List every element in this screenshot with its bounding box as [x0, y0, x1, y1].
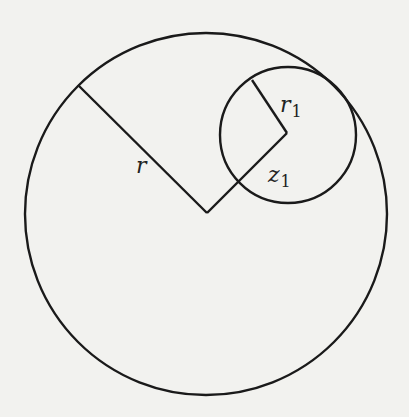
radius-r-line — [78, 85, 207, 213]
label-z1: z1 — [267, 162, 291, 191]
circles-diagram: r r1 z1 — [0, 0, 409, 417]
label-r: r — [136, 153, 148, 178]
label-r1: r1 — [280, 92, 302, 121]
